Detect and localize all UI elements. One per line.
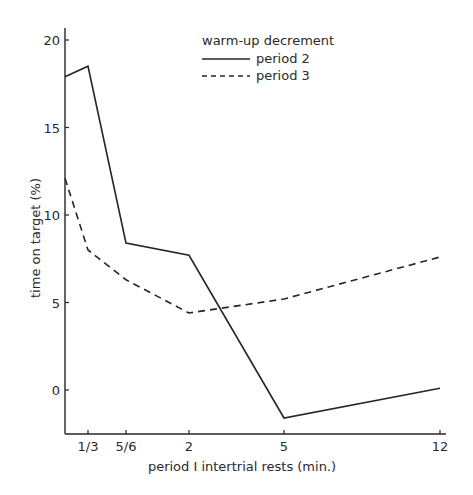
x-tick-label: 2 xyxy=(185,439,193,454)
legend-title: warm-up decrement xyxy=(202,33,334,48)
series-line-period-3 xyxy=(65,178,440,313)
legend-entry-period-2: period 2 xyxy=(256,51,310,66)
data-series xyxy=(65,66,440,418)
y-tick-label: 10 xyxy=(43,208,60,223)
axes xyxy=(65,28,446,434)
x-tick-label: 12 xyxy=(432,439,449,454)
legend: warm-up decrement period 2 period 3 xyxy=(202,33,334,83)
x-axis-label: period I intertrial rests (min.) xyxy=(148,459,336,474)
y-tick-label: 0 xyxy=(52,383,60,398)
y-tick-label: 20 xyxy=(43,33,60,48)
x-tick-label: 5/6 xyxy=(116,439,137,454)
series-line-period-2 xyxy=(65,66,440,418)
x-tick-label: 5 xyxy=(280,439,288,454)
x-tick-label: 1/3 xyxy=(78,439,99,454)
y-tick-label: 5 xyxy=(52,296,60,311)
line-chart: 05101520 1/35/62512 time on target (%) p… xyxy=(0,0,473,495)
legend-entry-period-3: period 3 xyxy=(256,68,310,83)
y-axis-label: time on target (%) xyxy=(28,178,43,298)
y-tick-label: 15 xyxy=(43,121,60,136)
